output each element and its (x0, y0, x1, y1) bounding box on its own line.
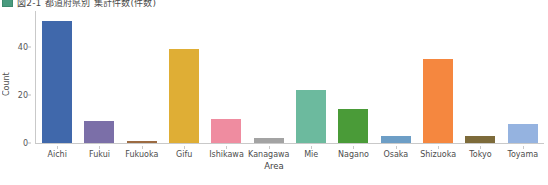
bar[interactable] (508, 124, 538, 143)
x-tick-mark (142, 146, 143, 149)
y-tick-label: 20 (18, 91, 28, 100)
bar[interactable] (254, 138, 284, 143)
plot-area: AichiFukuiFukuokaGifuIshikawaKanagawaMie… (36, 11, 544, 143)
x-tick-label: Tokyo (469, 150, 491, 159)
x-tick-mark (99, 146, 100, 149)
x-tick-label: Nagano (338, 150, 369, 159)
bar[interactable] (169, 49, 199, 143)
y-tick-label: 40 (18, 43, 28, 52)
bar[interactable] (211, 119, 241, 143)
x-tick-mark (184, 146, 185, 149)
bar-group[interactable]: Osaka (375, 11, 417, 143)
bar[interactable] (423, 59, 453, 143)
x-tick-mark (523, 146, 524, 149)
chart-title: 図2-1 都道府県別 集計件数(件数) (17, 0, 156, 9)
x-tick-label: Mie (304, 150, 318, 159)
bar-group[interactable]: Kanagawa (248, 11, 290, 143)
x-tick-mark (480, 146, 481, 149)
bar-group[interactable]: Tokyo (459, 11, 501, 143)
x-tick-mark (311, 146, 312, 149)
bar[interactable] (296, 90, 326, 143)
x-tick-label: Osaka (383, 150, 408, 159)
chart-title-strip: 図2-1 都道府県別 集計件数(件数) (0, 0, 548, 9)
x-tick-mark (438, 146, 439, 149)
x-axis-label: Area (0, 161, 548, 171)
x-tick-mark (226, 146, 227, 149)
bar[interactable] (127, 141, 157, 143)
bar-group[interactable]: Gifu (163, 11, 205, 143)
bar[interactable] (84, 121, 114, 143)
bar-group[interactable]: Fukui (78, 11, 120, 143)
x-axis-line (35, 143, 544, 144)
bar[interactable] (338, 109, 368, 143)
x-tick-mark (269, 146, 270, 149)
bar-chart-figure: Count 02040 AichiFukuiFukuokaGifuIshikaw… (0, 9, 548, 185)
y-axis-label: Count (1, 61, 12, 107)
x-tick-mark (57, 146, 58, 149)
y-tick-mark (28, 47, 31, 48)
bar[interactable] (42, 21, 72, 143)
y-tick-mark (28, 143, 31, 144)
bar-group[interactable]: Shizuoka (417, 11, 459, 143)
x-tick-label: Kanagawa (248, 150, 289, 159)
bar-group[interactable]: Toyama (502, 11, 544, 143)
bar-group[interactable]: Nagano (332, 11, 374, 143)
x-tick-mark (353, 146, 354, 149)
x-tick-label: Fukui (89, 150, 110, 159)
bar-group[interactable]: Ishikawa (205, 11, 247, 143)
x-tick-label: Toyama (507, 150, 538, 159)
title-color-swatch (2, 0, 13, 7)
bar[interactable] (465, 136, 495, 143)
bar-group[interactable]: Aichi (36, 11, 78, 143)
bar-group[interactable]: Fukuoka (121, 11, 163, 143)
y-tick-mark (28, 95, 31, 96)
y-axis-ticks: 02040 (12, 9, 32, 185)
bar-group[interactable]: Mie (290, 11, 332, 143)
x-tick-label: Ishikawa (209, 150, 244, 159)
x-tick-label: Gifu (176, 150, 192, 159)
x-tick-label: Aichi (47, 150, 66, 159)
x-tick-mark (396, 146, 397, 149)
x-tick-label: Shizuoka (420, 150, 456, 159)
bar[interactable] (381, 136, 411, 143)
x-tick-label: Fukuoka (125, 150, 158, 159)
